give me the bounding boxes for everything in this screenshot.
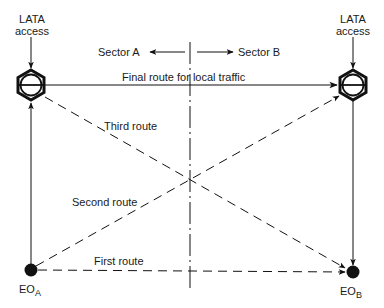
end-office-a-dot-icon [25, 264, 38, 277]
third-route-label: Third route [104, 120, 157, 132]
tandem-hexagon-a-icon [18, 70, 44, 100]
final-route-label: Final route for local traffic [122, 71, 245, 83]
second-route-line [36, 96, 339, 266]
first-route-label: First route [94, 255, 144, 267]
lata-access-label-a: LATA access [12, 13, 52, 37]
end-office-b-dot-icon [347, 266, 360, 279]
routing-diagram: LATA access LATA access Sector A Sector … [0, 0, 384, 308]
tandem-hexagon-b-icon [340, 70, 366, 100]
diagram-canvas [0, 0, 384, 308]
lata-access-label-b: LATA access [333, 13, 373, 37]
third-route-line [45, 97, 345, 268]
sector-b-label: Sector B [238, 46, 280, 58]
sector-a-label: Sector A [98, 46, 140, 58]
second-route-label: Second route [72, 196, 137, 208]
eo-b-label: EOB [340, 285, 362, 298]
first-route-line [38, 270, 345, 272]
eo-a-label: EOA [19, 283, 41, 296]
